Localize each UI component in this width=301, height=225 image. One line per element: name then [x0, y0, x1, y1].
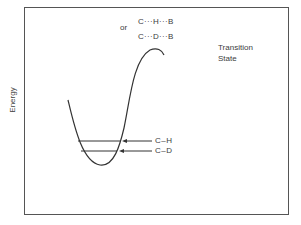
ch-arrow-head: [122, 139, 127, 143]
cd-bond-label: C–D: [155, 146, 173, 156]
transition-state-label: Transition State: [218, 42, 253, 64]
potential-energy-curve: [68, 49, 164, 165]
transition-state-line1: Transition: [218, 42, 253, 53]
cd-arrow-head: [119, 149, 124, 153]
transition-state-line2: State: [218, 53, 253, 64]
or-label: or: [120, 23, 127, 33]
ch-transition-species: C···H···B: [138, 17, 174, 27]
y-axis-label: Energy: [8, 87, 17, 112]
ch-bond-label: C–H: [155, 136, 173, 146]
cd-transition-species: C···D···B: [138, 32, 174, 42]
